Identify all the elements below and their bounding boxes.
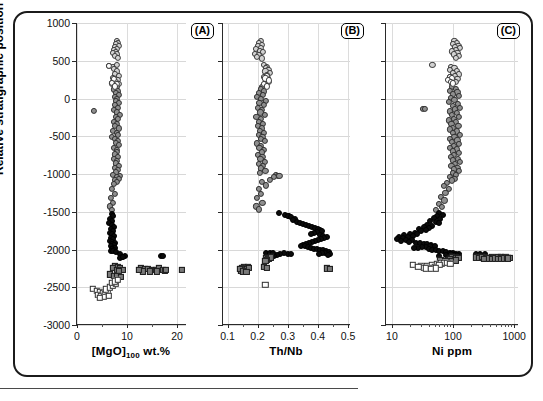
x-gridline — [77, 23, 78, 324]
x-tick-label: 0.3 — [280, 330, 295, 342]
x-tick — [288, 324, 289, 328]
x-tick — [348, 324, 349, 328]
y-tick — [218, 212, 223, 213]
data-point-gray-square — [154, 268, 160, 274]
data-point-open-square — [447, 261, 453, 267]
x-gridline — [348, 23, 349, 324]
x-tick-label: 0.2 — [250, 330, 265, 342]
x-tick — [258, 324, 259, 328]
x-tick — [318, 324, 319, 328]
panel-b-tag: (B) — [341, 23, 364, 39]
y-gridline — [386, 212, 518, 213]
panel-c: 101001000 (C) — [385, 23, 518, 325]
y-tick — [381, 23, 386, 24]
y-tick-label: -3000 — [43, 319, 70, 331]
y-gridline — [77, 23, 186, 24]
x-minor-tick — [447, 324, 448, 327]
y-gridline — [77, 174, 186, 175]
data-point-black-circle — [316, 251, 322, 257]
x-gridline — [228, 23, 229, 324]
y-tick — [381, 174, 386, 175]
y-tick — [381, 212, 386, 213]
y-gridline — [77, 61, 186, 62]
y-gridline — [223, 99, 350, 100]
data-point-open-square — [415, 264, 421, 270]
x-tick-label: 20 — [171, 330, 183, 342]
data-point-gray-square — [481, 256, 487, 262]
panel-b-plot-area: 0.10.20.30.40.5 — [222, 23, 350, 325]
y-gridline — [223, 174, 350, 175]
y-tick — [218, 250, 223, 251]
x-gridline — [514, 23, 515, 324]
y-tick — [218, 174, 223, 175]
y-gridline — [386, 325, 518, 326]
data-point-open-square — [262, 282, 268, 288]
y-gridline — [77, 325, 186, 326]
y-gridline — [223, 23, 350, 24]
x-tick — [392, 324, 393, 328]
data-point-light-gray-circle — [429, 62, 435, 68]
y-gridline — [223, 61, 350, 62]
x-minor-tick — [450, 324, 451, 327]
y-tick — [218, 99, 223, 100]
x-minor-tick — [490, 324, 491, 327]
data-point-black-circle — [398, 238, 404, 244]
x-gridline — [177, 23, 178, 324]
x-tick-label: 10 — [121, 330, 133, 342]
x-minor-tick — [152, 324, 153, 327]
y-tick-label: 1000 — [47, 17, 70, 29]
y-tick — [381, 99, 386, 100]
x-minor-tick — [435, 324, 436, 327]
figure-root: Relative stratigraphic position (m) 1000… — [0, 0, 543, 401]
y-tick — [218, 325, 223, 326]
data-point-gray-square — [453, 257, 459, 263]
x-tick-label: 0.4 — [311, 330, 326, 342]
y-tick — [381, 250, 386, 251]
data-point-open-square — [114, 276, 120, 282]
y-gridline — [223, 287, 350, 288]
data-point-open-square — [97, 295, 103, 301]
y-tick-label: 500 — [52, 55, 70, 67]
data-point-gray-square — [147, 268, 153, 274]
y-tick-label: 0 — [64, 93, 70, 105]
x-tick — [453, 324, 454, 328]
y-gridline — [77, 250, 186, 251]
panel-a-plot-area: 10005000-500-1000-1500-2000-2500-3000010… — [76, 23, 186, 325]
data-point-gray-square — [136, 267, 142, 273]
x-tick-label: 10 — [386, 330, 398, 342]
panel-c-x-axis-title: Ni ppm — [432, 345, 472, 357]
x-minor-tick — [444, 324, 445, 327]
x-minor-tick — [501, 324, 502, 327]
data-point-medium-gray-circle — [441, 197, 447, 203]
x-minor-tick — [508, 324, 509, 327]
panel-b-x-title-main: Th/Nb — [269, 345, 303, 357]
data-point-medium-gray-circle — [276, 173, 282, 179]
y-tick — [218, 23, 223, 24]
x-minor-tick — [102, 324, 103, 327]
x-minor-tick — [273, 324, 274, 327]
y-tick-label: -1500 — [43, 206, 70, 218]
y-axis-title: Relative stratigraphic position (m) — [0, 0, 6, 175]
x-tick — [127, 324, 128, 328]
panel-c-plot-area: 101001000 — [385, 23, 518, 325]
data-point-black-circle — [436, 220, 442, 226]
y-gridline — [386, 61, 518, 62]
data-point-black-circle — [325, 252, 331, 258]
data-point-black-circle — [120, 254, 126, 260]
panel-b-x-axis-title: Th/Nb — [269, 345, 303, 357]
y-tick — [218, 136, 223, 137]
panel-a-x-title-tail: wt.% — [140, 345, 170, 357]
panel-b: 0.10.20.30.40.5 (B) — [222, 23, 350, 325]
y-gridline — [77, 136, 186, 137]
x-gridline — [127, 23, 128, 324]
panel-a-x-axis-title: [MgO]100 wt.% — [92, 345, 171, 360]
x-gridline — [288, 23, 289, 324]
x-tick-label: 0.1 — [220, 330, 235, 342]
x-tick-label: 0.5 — [341, 330, 356, 342]
data-point-gray-square — [163, 267, 169, 273]
data-point-medium-gray-circle — [422, 106, 428, 112]
y-tick — [218, 61, 223, 62]
data-point-gray-square — [505, 255, 511, 261]
y-tick — [381, 325, 386, 326]
y-tick-label: -1000 — [43, 168, 70, 180]
